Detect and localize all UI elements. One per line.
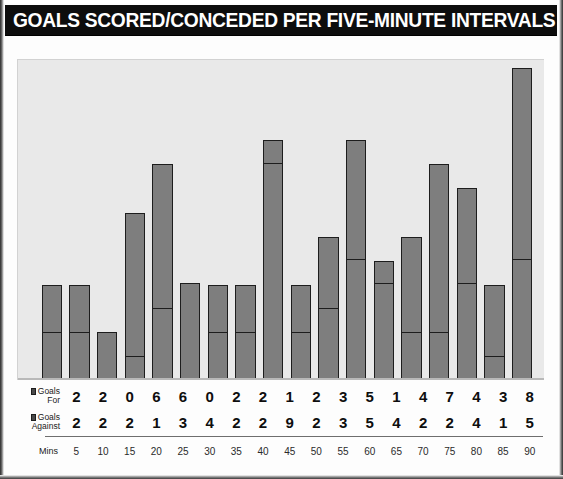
mins-cell: 35 xyxy=(223,446,250,457)
bar-interval-15 xyxy=(97,332,117,380)
chart-page: GOALS SCORED/CONCEDED PER FIVE-MINUTE IN… xyxy=(0,0,563,479)
mins-cell: 80 xyxy=(463,446,490,457)
bar-interval-75 xyxy=(429,163,449,380)
goals-for-cell: 4 xyxy=(463,388,490,405)
bar-segment-goals-for xyxy=(235,285,255,333)
bar-interval-5 xyxy=(42,283,62,380)
bar-segment-goals-for xyxy=(318,237,338,309)
legend-goals-against: Goals Against xyxy=(17,413,63,432)
bar-interval-25 xyxy=(152,163,172,380)
bar-segment-goals-for xyxy=(208,285,228,333)
bar-segment-goals-for xyxy=(125,213,145,358)
bar-segment-goals-against xyxy=(69,332,89,380)
goals-against-cell: 4 xyxy=(196,414,223,431)
bar-interval-85 xyxy=(484,283,504,380)
chart-plot-area xyxy=(17,59,544,380)
goals-for-cell: 3 xyxy=(490,388,517,405)
page-edge-left xyxy=(0,0,4,479)
goals-for-values: 220660221235147438 xyxy=(63,383,543,409)
mins-cell: 5 xyxy=(63,446,90,457)
bar-segment-goals-against xyxy=(401,332,421,380)
table-divider-rule xyxy=(45,436,543,437)
mins-cell: 20 xyxy=(143,446,170,457)
bar-interval-10 xyxy=(69,283,89,380)
page-edge-bottom xyxy=(0,475,563,479)
legend-goals-against-label-line2: Against xyxy=(17,422,60,432)
goals-against-cell: 2 xyxy=(250,414,277,431)
goals-against-cell: 2 xyxy=(223,414,250,431)
goals-for-cell: 4 xyxy=(410,388,437,405)
page-title: GOALS SCORED/CONCEDED PER FIVE-MINUTE IN… xyxy=(5,9,555,32)
goals-for-cell: 5 xyxy=(356,388,383,405)
bar-segment-goals-against xyxy=(208,332,228,380)
bar-interval-30 xyxy=(180,283,200,380)
bar-segment-goals-against xyxy=(374,283,394,380)
mins-cell: 60 xyxy=(356,446,383,457)
table-row-mins: Mins 51015202530354045505560657075808590 xyxy=(17,440,543,462)
bar-interval-55 xyxy=(318,235,338,380)
bar-interval-35 xyxy=(208,283,228,380)
goals-against-cell: 2 xyxy=(116,414,143,431)
page-edge-top xyxy=(0,0,563,3)
goals-against-cell: 3 xyxy=(170,414,197,431)
bar-interval-80 xyxy=(457,187,477,380)
goals-for-cell: 1 xyxy=(383,388,410,405)
bar-segment-goals-against xyxy=(152,308,172,380)
goals-for-cell: 2 xyxy=(250,388,277,405)
bar-interval-20 xyxy=(125,211,145,380)
mins-cell: 75 xyxy=(436,446,463,457)
bar-segment-goals-against xyxy=(429,332,449,380)
goals-for-cell: 6 xyxy=(170,388,197,405)
table-row-goals-for: Goals For 220660221235147438 xyxy=(17,383,543,409)
bar-segment-goals-against xyxy=(484,356,504,380)
goals-for-cell: 7 xyxy=(436,388,463,405)
bar-segment-goals-against xyxy=(97,332,117,380)
goals-against-cell: 5 xyxy=(356,414,383,431)
legend-goals-for-label-line2: For xyxy=(17,396,60,406)
legend-goals-against-label-line1: Goals xyxy=(38,412,60,422)
chart-title-bar: GOALS SCORED/CONCEDED PER FIVE-MINUTE IN… xyxy=(5,5,557,35)
goals-for-cell: 2 xyxy=(90,388,117,405)
legend-swatch-goals-against-icon xyxy=(31,414,36,421)
bar-segment-goals-for xyxy=(457,188,477,285)
goals-for-cell: 0 xyxy=(196,388,223,405)
bar-interval-60 xyxy=(346,138,366,380)
bar-interval-40 xyxy=(235,283,255,380)
bar-segment-goals-against xyxy=(291,332,311,380)
goals-for-cell: 8 xyxy=(516,388,543,405)
mins-axis-label: Mins xyxy=(17,446,63,456)
table-row-goals-against: Goals Against 222134229235422415 xyxy=(17,409,543,435)
goals-against-cell: 2 xyxy=(90,414,117,431)
goals-for-cell: 3 xyxy=(330,388,357,405)
goals-against-cell: 3 xyxy=(330,414,357,431)
bar-segment-goals-for xyxy=(346,140,366,261)
goals-for-cell: 0 xyxy=(116,388,143,405)
bar-segment-goals-against xyxy=(180,283,200,380)
bar-segment-goals-for xyxy=(512,68,532,261)
goals-for-cell: 2 xyxy=(63,388,90,405)
goals-against-cell: 1 xyxy=(143,414,170,431)
goals-for-cell: 1 xyxy=(276,388,303,405)
legend-goals-for-label-line1: Goals xyxy=(38,386,60,396)
mins-cell: 15 xyxy=(116,446,143,457)
bar-interval-90 xyxy=(512,66,532,380)
bar-segment-goals-against xyxy=(346,259,366,380)
bar-segment-goals-against xyxy=(42,332,62,380)
goals-against-cell: 4 xyxy=(463,414,490,431)
bar-interval-65 xyxy=(374,259,394,380)
bar-segment-goals-for xyxy=(69,285,89,333)
mins-cell: 85 xyxy=(490,446,517,457)
mins-cell: 30 xyxy=(196,446,223,457)
goals-against-cell: 2 xyxy=(303,414,330,431)
goals-for-cell: 6 xyxy=(143,388,170,405)
mins-cell: 90 xyxy=(516,446,543,457)
legend-swatch-goals-for-icon xyxy=(31,388,36,395)
goals-against-cell: 5 xyxy=(516,414,543,431)
bar-segment-goals-against xyxy=(263,163,283,380)
goals-against-cell: 2 xyxy=(410,414,437,431)
mins-cell: 65 xyxy=(383,446,410,457)
bar-interval-45 xyxy=(263,138,283,380)
goals-for-cell: 2 xyxy=(303,388,330,405)
mins-cell: 45 xyxy=(276,446,303,457)
bar-segment-goals-against xyxy=(457,283,477,380)
